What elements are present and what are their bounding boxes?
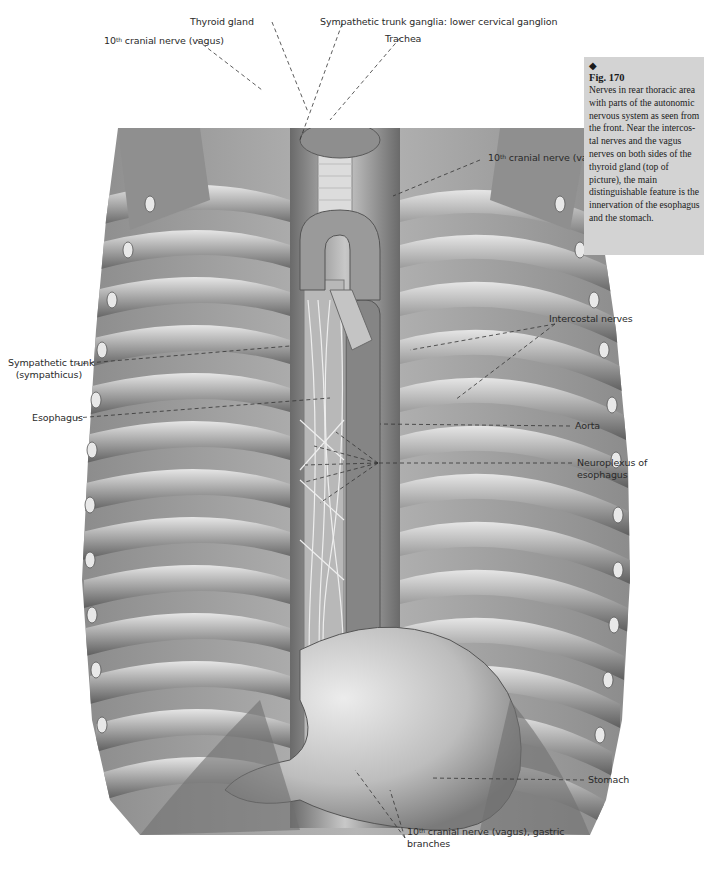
label-sympathetic-trunk: Sympathetic trunk(sympathicus): [8, 357, 82, 381]
label-aorta: Aorta: [575, 420, 600, 432]
label-vagus-left: 10th cranial nerve (vagus): [104, 35, 224, 47]
figure-caption: ◆ Fig. 170 Nerves in rear thoracic area …: [584, 57, 704, 255]
label-vagus-gastric: 10th cranial nerve (vagus), gastricbranc…: [407, 826, 564, 850]
thyroid-shape: [300, 122, 380, 158]
label-stomach: Stomach: [588, 774, 629, 786]
figure-number: Fig. 170: [589, 71, 701, 84]
label-neuroplexus: Neuroplexus ofesophagus: [577, 457, 647, 481]
label-intercostal-nerves: Intercostal nerves: [549, 313, 633, 325]
caption-marker-icon: ◆: [589, 61, 701, 71]
label-thyroid-gland: Thyroid gland: [190, 16, 254, 28]
caption-text: Nerves in rear thoracic area with parts …: [589, 84, 701, 225]
label-esophagus: Esophagus: [32, 412, 83, 424]
label-trachea: Trachea: [385, 33, 421, 45]
anatomical-figure: Thyroid gland Sympathetic trunk ganglia:…: [0, 0, 704, 875]
label-sympathetic-ganglia: Sympathetic trunk ganglia: lower cervica…: [320, 16, 557, 28]
